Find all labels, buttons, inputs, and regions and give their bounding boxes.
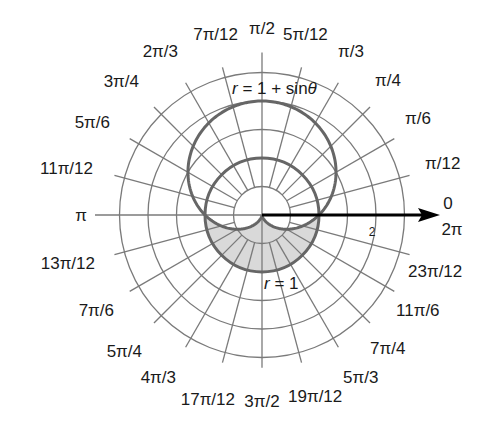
angle-label: 7π/4 <box>370 339 405 358</box>
angle-label: π/3 <box>338 42 364 61</box>
angle-label: 7π/12 <box>193 25 238 44</box>
angle-label: 19π/12 <box>288 387 342 406</box>
grid-spoke <box>276 240 338 348</box>
angle-label: 11π/6 <box>396 301 440 320</box>
grid-spoke <box>130 229 238 291</box>
polar-grid-spokes <box>95 53 410 368</box>
grid-spoke <box>186 240 248 348</box>
grid-spoke <box>130 139 238 201</box>
angle-label: 2π/3 <box>143 42 178 61</box>
angle-label: 3π/2 <box>244 392 279 411</box>
angle-label: 11π/12 <box>40 159 93 178</box>
angle-label: 23π/12 <box>408 262 462 281</box>
grid-spoke <box>287 139 395 201</box>
grid-spoke <box>186 83 248 191</box>
angle-label: π/6 <box>405 109 431 128</box>
angle-label: π/4 <box>375 71 401 90</box>
grid-spoke <box>287 229 395 291</box>
cardioid-equation-label: r = 1 + sinθ <box>232 79 318 98</box>
grid-spoke <box>276 83 338 191</box>
angle-label: 4π/3 <box>141 368 176 387</box>
angle-label: 5π/3 <box>343 368 378 387</box>
angle-label: 7π/6 <box>79 301 114 320</box>
angle-label: 17π/12 <box>181 390 235 409</box>
angle-label: 5π/4 <box>107 342 142 361</box>
angle-label: 2π <box>441 220 462 239</box>
angle-label: 0 <box>443 194 452 213</box>
unit-circle-equation-label: r = 1 <box>264 274 299 293</box>
angle-label: 3π/4 <box>104 72 139 91</box>
polar-axis-arrow <box>262 208 440 222</box>
angle-label: 5π/12 <box>283 25 328 44</box>
angle-label: π <box>75 206 87 225</box>
axis-tick-label-2: 2 <box>369 225 376 239</box>
angle-label: 5π/6 <box>75 113 110 132</box>
angle-label: π/2 <box>249 19 275 38</box>
polar-diagram: 02ππ/12π/6π/4π/35π/12π/27π/122π/33π/45π/… <box>0 0 486 437</box>
angle-label: π/12 <box>425 154 460 173</box>
angle-label: 13π/12 <box>41 254 95 273</box>
